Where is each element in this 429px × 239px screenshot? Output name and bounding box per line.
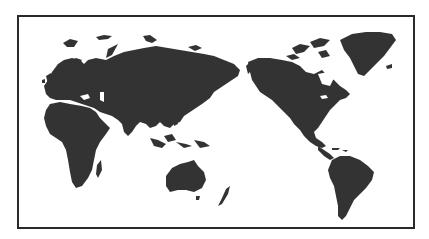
region-australia [166, 160, 206, 192]
region-south-america [328, 156, 374, 220]
region-north-america [246, 38, 350, 160]
region-tasmania [196, 196, 200, 200]
region-new-zealand [218, 186, 230, 206]
region-iceland [386, 64, 392, 69]
region-madagascar [96, 160, 102, 178]
world-map [0, 0, 429, 239]
region-africa [44, 102, 110, 188]
region-greenland [340, 32, 396, 76]
